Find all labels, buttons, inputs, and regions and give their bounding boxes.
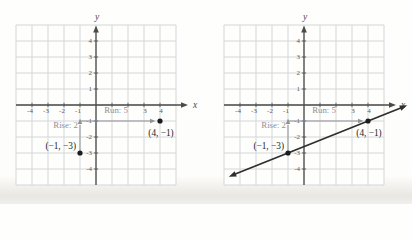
data-point — [157, 118, 162, 123]
figure: -4-3-2-1344321-1-2-3-4xyRun: 5Rise: 2(−1… — [0, 0, 412, 204]
x-axis-arrowhead — [389, 102, 396, 108]
y-tick-label: 4 — [89, 37, 93, 45]
y-tick-label: 2 — [89, 69, 93, 77]
y-tick-label: -2 — [86, 133, 92, 141]
x-axis-label: x — [192, 100, 198, 110]
y-tick-label: 3 — [297, 53, 301, 61]
y-tick-label: 1 — [89, 85, 93, 93]
rise-label: Rise: 2 — [53, 120, 78, 130]
rise-run-graphs: -4-3-2-1344321-1-2-3-4xyRun: 5Rise: 2(−1… — [0, 0, 412, 204]
point-label: (−1, −3) — [253, 141, 284, 152]
y-tick-label: -2 — [294, 133, 300, 141]
y-tick-label: 3 — [89, 53, 93, 61]
y-axis-label: y — [302, 12, 308, 22]
x-tick-label: 3 — [351, 107, 355, 115]
rise-label: Rise: 2 — [261, 120, 286, 130]
x-tick-label: -2 — [59, 107, 65, 115]
x-tick-label: 3 — [143, 107, 147, 115]
data-point — [365, 118, 370, 123]
x-tick-label: -1 — [75, 107, 81, 115]
x-tick-label: 4 — [367, 107, 371, 115]
run-label: Run: 5 — [312, 105, 336, 115]
right-graph: -4-3-2-1344321-1-2-3-4xyRun: 5Rise: 2(−1… — [224, 12, 407, 185]
y-tick-label: -3 — [86, 149, 92, 157]
x-tick-label: -3 — [251, 107, 257, 115]
x-tick-label: -4 — [235, 107, 241, 115]
y-tick-label: -4 — [294, 165, 300, 173]
y-tick-label: 4 — [297, 37, 301, 45]
run-label: Run: 5 — [104, 105, 128, 115]
left-graph: -4-3-2-1344321-1-2-3-4xyRun: 5Rise: 2(−1… — [16, 12, 198, 185]
point-label: (−1, −3) — [45, 141, 76, 152]
point-label: (4, −1) — [148, 128, 173, 139]
x-axis-arrowhead — [181, 102, 188, 108]
x-tick-label: 4 — [159, 107, 163, 115]
slope-line-arrowhead-right — [399, 105, 407, 110]
x-tick-label: -1 — [283, 107, 289, 115]
data-point — [285, 150, 290, 155]
y-tick-label: 1 — [297, 85, 301, 93]
y-tick-label: -4 — [86, 165, 92, 173]
point-label: (4, −1) — [356, 128, 381, 139]
x-tick-label: -4 — [27, 107, 33, 115]
y-axis-label: y — [94, 12, 100, 22]
data-point — [77, 150, 82, 155]
y-tick-label: 2 — [297, 69, 301, 77]
x-tick-label: -3 — [43, 107, 49, 115]
x-tick-label: -2 — [267, 107, 273, 115]
